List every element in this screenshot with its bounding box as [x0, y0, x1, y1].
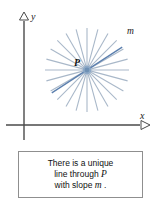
- figure-container: y x P m There is a unique line through P…: [0, 0, 163, 206]
- x-axis-arrowhead-icon: [141, 121, 150, 130]
- point-p-label: P: [74, 57, 81, 68]
- caption-line-2-text: line through: [54, 169, 101, 179]
- caption-line-2: line through P: [54, 169, 107, 180]
- caption-math-p: P: [101, 169, 107, 179]
- caption-line-3-period: .: [102, 180, 107, 190]
- caption-line-3: with slope m .: [55, 180, 107, 191]
- caption-box: There is a unique line through P with sl…: [18, 151, 143, 198]
- x-axis: [6, 121, 150, 130]
- point-p-dot-core: [85, 68, 90, 73]
- x-axis-label: x: [139, 110, 145, 121]
- caption-math-m: m: [95, 180, 102, 190]
- caption-line-1: There is a unique: [48, 158, 114, 169]
- y-axis-arrowhead-icon: [20, 12, 29, 20]
- slope-m-label: m: [127, 26, 134, 36]
- caption-line-3-text: with slope: [55, 180, 95, 190]
- y-axis-label: y: [30, 11, 36, 22]
- y-axis: [20, 12, 29, 140]
